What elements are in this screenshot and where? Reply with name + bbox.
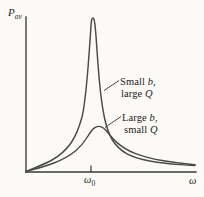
y-axis-label-main: P (8, 6, 15, 18)
x-axis-label: ω (189, 175, 197, 187)
annotation-small-b-post: , (153, 76, 156, 87)
annotation-large-q-line2: large Q (120, 88, 156, 100)
plot-canvas (0, 0, 204, 197)
annotation-small-b-line1: Small b, (120, 76, 156, 87)
resonance-figure: Pav ω ω0 Small b, large Q Large b, small… (0, 0, 204, 197)
annotation-large-b-small-q: Large b, small Q (122, 112, 158, 137)
annotation-large-q-symbol: Q (145, 88, 153, 99)
annotation-small-b-pre: Small (120, 76, 148, 87)
x-tick-label-main: ω (84, 174, 92, 185)
annotation-large-b-line1: Large b, (122, 112, 158, 123)
annotation-small-q-symbol: Q (150, 124, 158, 135)
annotation-small-q-pre: small (124, 124, 150, 135)
annotation-small-q-line2: small Q (122, 124, 158, 136)
y-axis-label: Pav (8, 6, 22, 21)
leader-line-small-b (104, 81, 119, 91)
leader-line-large-b (105, 117, 121, 128)
annotation-large-b-post: , (155, 112, 158, 123)
curve-small-b-large-q (26, 18, 195, 172)
y-axis-label-subscript: av (15, 12, 22, 21)
x-tick-label-omega-zero: ω0 (84, 174, 95, 188)
annotation-small-b-large-q: Small b, large Q (120, 76, 156, 101)
annotation-large-q-pre: large (121, 88, 145, 99)
curve-large-b-small-q (26, 126, 196, 171)
x-tick-label-subscript: 0 (92, 179, 96, 188)
axes-group (26, 17, 196, 172)
annotation-large-b-pre: Large (122, 112, 150, 123)
